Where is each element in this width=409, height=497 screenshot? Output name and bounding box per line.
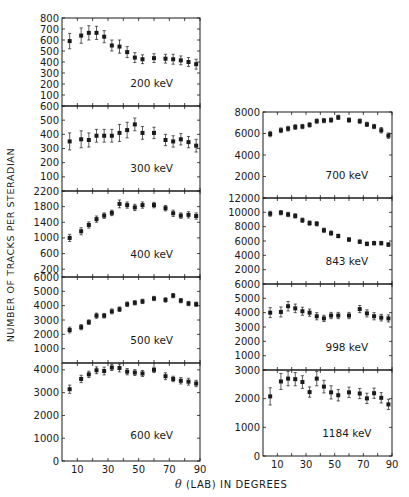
data-point (293, 373, 297, 386)
y-tick-label: 2000 (235, 264, 260, 275)
data-point (152, 202, 156, 207)
data-point (286, 212, 290, 216)
data-point (68, 385, 72, 393)
data-point (308, 221, 312, 225)
x-tick-label: 50 (328, 459, 341, 470)
data-point (386, 399, 390, 409)
y-tick-label: 3000 (34, 315, 59, 326)
data-point (171, 210, 175, 216)
data-point (68, 33, 72, 48)
x-tick-label: 30 (102, 464, 115, 475)
data-point (187, 136, 191, 147)
y-tick-label: 4000 (235, 150, 260, 161)
y-tick-label: 6000 (235, 236, 260, 247)
data-point (125, 47, 129, 58)
y-tick-label: 4000 (34, 364, 59, 375)
data-point (315, 313, 319, 320)
data-point (379, 314, 383, 321)
data-point (110, 40, 114, 51)
y-tick-label: 2000 (235, 171, 260, 182)
panel-700-kev: 2000400060008000700 keV (235, 107, 392, 199)
data-point (118, 40, 122, 53)
y-tick-label: 2000 (34, 329, 59, 340)
data-point (164, 373, 168, 380)
data-point (379, 128, 383, 133)
data-point (322, 118, 326, 122)
data-point (141, 127, 145, 140)
y-tick-label: 1000 (235, 422, 260, 433)
data-point (179, 378, 183, 384)
data-point (95, 129, 99, 142)
panel-200-kev: 100200300400500600700800200 keV (40, 13, 200, 107)
y-tick-label: 1800 (34, 201, 59, 212)
data-point (110, 210, 114, 215)
data-point (133, 301, 137, 305)
data-point (308, 309, 312, 316)
data-point (133, 118, 137, 131)
data-point (279, 211, 283, 215)
data-point (358, 240, 362, 244)
y-tick-label: 1000 (34, 232, 59, 243)
energy-label: 600 keV (130, 429, 174, 441)
panel-1184-kev: 01000200030001184 keV1030507090 (235, 365, 399, 471)
data-point (358, 119, 362, 123)
y-tick-label: 3000 (235, 365, 260, 376)
data-point (365, 122, 369, 126)
data-point (300, 124, 304, 128)
y-tick-label: 300 (40, 143, 59, 154)
energy-label: 500 keV (130, 334, 174, 346)
energy-label: 1184 keV (322, 427, 372, 439)
data-point (347, 312, 351, 318)
data-point (125, 368, 129, 374)
y-tick-label: 1400 (34, 217, 59, 228)
panel-500-kev: 100020003000400050006000500 keV (34, 272, 200, 364)
data-point (194, 213, 198, 219)
data-point (187, 301, 191, 305)
data-point (68, 234, 72, 241)
data-point (329, 118, 333, 122)
data-point (179, 299, 183, 303)
y-tick-label: 2000 (34, 410, 59, 421)
data-point (125, 302, 129, 307)
data-point (118, 364, 122, 372)
energy-label: 998 keV (325, 341, 369, 353)
x-tick-label: 90 (386, 459, 399, 470)
y-tick-label: 4000 (34, 300, 59, 311)
y-tick-label: 600 (40, 248, 59, 259)
y-tick-label: 100 (40, 171, 59, 182)
panel-frame (263, 284, 392, 370)
data-point (164, 205, 168, 210)
data-point (268, 388, 272, 405)
data-point (268, 131, 272, 136)
data-point (268, 211, 272, 216)
data-point (358, 306, 362, 313)
y-tick-label: 10000 (228, 207, 260, 218)
data-point (300, 376, 304, 389)
y-tick-label: 5000 (235, 293, 260, 304)
y-tick-label: 1000 (235, 350, 260, 361)
data-point (87, 133, 91, 147)
x-tick-label: 10 (71, 464, 84, 475)
data-point (87, 320, 91, 325)
figure: 100200300400500600700800200 keV100200300… (0, 0, 409, 497)
energy-label: 200 keV (130, 77, 174, 89)
data-point (194, 302, 198, 306)
data-point (87, 222, 91, 228)
data-point (118, 200, 122, 208)
panel-300-kev: 100200300400500600300 keV (40, 101, 200, 192)
data-point (347, 387, 351, 397)
y-tick-label: 6000 (34, 272, 59, 283)
data-point (141, 55, 145, 64)
data-point (329, 386, 333, 399)
x-tick-label: 30 (300, 459, 313, 470)
data-point (95, 313, 99, 318)
data-point (293, 125, 297, 130)
data-point (322, 228, 326, 232)
data-point (110, 365, 114, 371)
y-tick-label: 400 (40, 57, 59, 68)
data-point (87, 371, 91, 377)
y-axis-label: NUMBER OF TRACKS PER STERADIAN (5, 145, 19, 345)
data-point (179, 134, 183, 145)
data-point (171, 54, 175, 64)
y-tick-label: 6000 (235, 128, 260, 139)
